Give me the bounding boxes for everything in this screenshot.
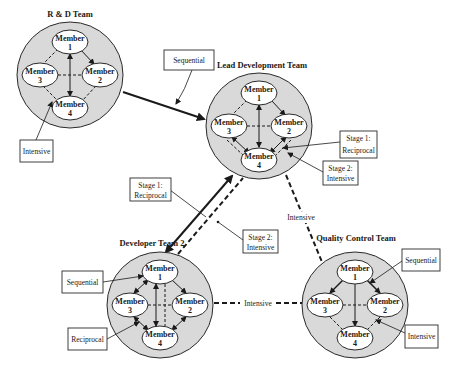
label-qc-intensive: Intensive — [405, 325, 438, 348]
dev2-m3-label: Member — [115, 297, 145, 306]
qc-team-title: Quality Control Team — [316, 233, 396, 243]
dev2-m1-label: Member — [145, 264, 175, 273]
dev2-m4-num: 4 — [158, 339, 162, 348]
qc-m1-num: 1 — [353, 273, 357, 282]
lead-m3-num: 3 — [227, 127, 231, 136]
svg-text:Intensive: Intensive — [408, 332, 436, 341]
qc-m3-label: Member — [310, 297, 340, 306]
label-dev2-qc-intensive: Intensive — [244, 299, 272, 308]
svg-text:Stage 2:: Stage 2: — [248, 233, 272, 242]
label-lead-stage2: Stage 2: Intensive — [323, 161, 358, 185]
svg-text:Sequential: Sequential — [67, 278, 99, 287]
dev2-m2-label: Member — [175, 297, 205, 306]
svg-text:Intensive: Intensive — [244, 299, 272, 308]
rd-m1-label: Member — [55, 34, 85, 43]
svg-text:Intensive: Intensive — [247, 243, 275, 252]
lead-m2-label: Member — [274, 118, 304, 127]
svg-text:Stage 1:: Stage 1: — [346, 134, 370, 143]
rd-m1-num: 1 — [68, 43, 72, 52]
lead-m1-num: 1 — [257, 94, 261, 103]
lead-m4-num: 4 — [257, 161, 261, 170]
svg-text:Sequential: Sequential — [173, 56, 205, 65]
svg-text:Stage 2:: Stage 2: — [328, 164, 352, 173]
label-rd-lead-sequential: Sequential — [164, 50, 214, 70]
rd-m3-num: 3 — [38, 76, 42, 85]
lead-m3-label: Member — [214, 118, 244, 127]
dev2-team-title: Developer Team 2 — [119, 238, 184, 248]
lead-m4-label: Member — [244, 152, 274, 161]
qc-m3-num: 3 — [323, 306, 327, 315]
dev2-m2-num: 2 — [188, 306, 192, 315]
qc-m4-label: Member — [340, 330, 370, 339]
rd-m3-label: Member — [25, 67, 55, 76]
label-qc-sequential: Sequential — [402, 249, 440, 271]
team-interdependence-diagram: R & D Team Member 1 Member 2 Member 3 Me… — [0, 0, 459, 377]
rd-m4-num: 4 — [68, 109, 72, 118]
svg-text:Reciprocal: Reciprocal — [342, 146, 374, 155]
svg-text:Stage 1:: Stage 1: — [138, 181, 162, 190]
label-dev2-reciprocal: Reciprocal — [68, 328, 107, 350]
label-dev2-sequential: Sequential — [62, 271, 103, 293]
rd-to-lead-sequential-arrow — [123, 92, 204, 119]
rd-team-title: R & D Team — [47, 9, 93, 19]
label-rd-intensive: Intensive — [20, 140, 53, 162]
label-lead-qc-intensive: Intensive — [284, 212, 318, 223]
rd-m4-label: Member — [55, 100, 85, 109]
qc-m2-label: Member — [370, 297, 400, 306]
dev2-m1-num: 1 — [158, 273, 162, 282]
lead-dev2-intensive-dash — [178, 178, 243, 254]
qc-m1-label: Member — [340, 264, 370, 273]
qc-m2-num: 2 — [383, 306, 387, 315]
lead-team-title: Lead Development Team — [217, 60, 307, 70]
label-link-stage2: Stage 2: Intensive — [243, 230, 278, 253]
label-lead-stage1: Stage 1: Reciprocal — [340, 131, 377, 158]
label-link-stage1: Stage 1: Reciprocal — [130, 178, 171, 201]
rd-m2-label: Member — [85, 67, 115, 76]
svg-text:Intensive: Intensive — [287, 213, 315, 222]
svg-text:Intensive: Intensive — [327, 174, 355, 183]
qc-m4-num: 4 — [353, 339, 357, 348]
team-rd: R & D Team Member 1 Member 2 Member 3 Me… — [17, 9, 123, 128]
lead-m1-label: Member — [244, 85, 274, 94]
team-lead-development: Lead Development Team Member 1 Member 2 … — [206, 60, 312, 179]
svg-text:Sequential: Sequential — [405, 256, 437, 265]
rd-m2-num: 2 — [98, 76, 102, 85]
lead-m2-num: 2 — [287, 127, 291, 136]
svg-text:Intensive: Intensive — [23, 147, 51, 156]
svg-text:Reciprocal: Reciprocal — [134, 191, 166, 200]
team-developer-2: Developer Team 2 Member 1 Member 2 Membe… — [107, 238, 213, 358]
svg-text:Reciprocal: Reciprocal — [71, 335, 103, 344]
dev2-m3-num: 3 — [128, 306, 132, 315]
dev2-m4-label: Member — [145, 330, 175, 339]
